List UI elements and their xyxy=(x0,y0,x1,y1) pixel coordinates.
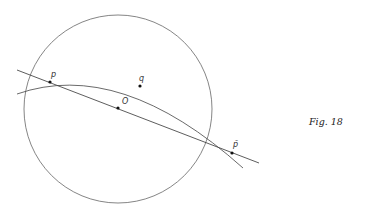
points-group: pqOp̄ xyxy=(48,70,238,155)
point-O-label: O xyxy=(122,97,128,106)
point-q-label: q xyxy=(139,74,144,83)
point-O-marker xyxy=(116,106,119,109)
point-p-label: p xyxy=(50,70,56,79)
geometry-figure: pqOp̄ xyxy=(0,0,365,216)
diameter-line xyxy=(17,70,259,163)
point-q-marker xyxy=(138,84,141,87)
point-p-bar-label: p̄ xyxy=(232,140,238,149)
figure-caption: Fig. 18 xyxy=(309,116,343,127)
orthogonal-arc xyxy=(17,85,243,168)
point-p-marker xyxy=(48,80,51,83)
point-p-bar-marker xyxy=(230,151,233,154)
